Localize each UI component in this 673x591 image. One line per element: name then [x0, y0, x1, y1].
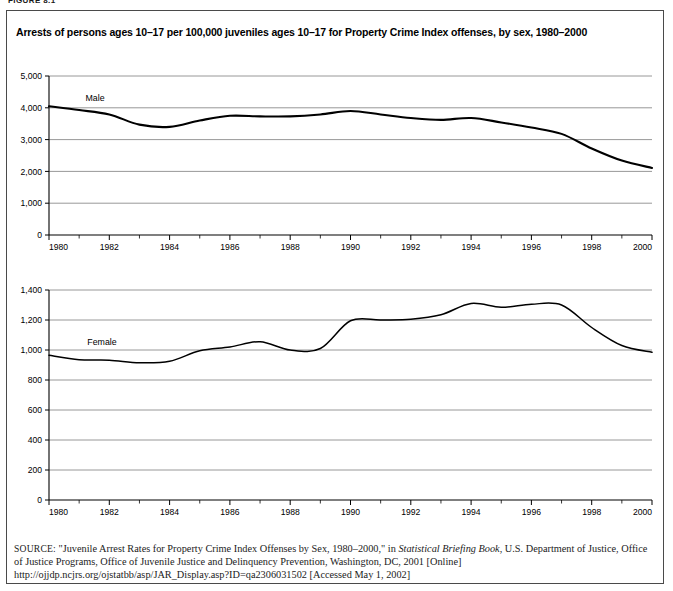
y-tick-label: 2,000 [20, 167, 42, 177]
y-tick-label: 1,000 [20, 198, 42, 208]
y-tick-label: 1,400 [20, 285, 42, 295]
x-tick-label: 1998 [582, 242, 601, 252]
series-label-male: Male [85, 93, 104, 103]
y-tick-label: 1,000 [20, 345, 42, 355]
x-tick-label: 1992 [401, 242, 420, 252]
x-tick-label: 1992 [401, 507, 420, 517]
y-tick-label: 200 [28, 465, 43, 475]
male-chart: 5,0004,0003,0002,0001,000019801982198419… [20, 71, 652, 252]
source-label: SOURCE: [14, 543, 56, 554]
charts-svg: 5,0004,0003,0002,0001,000019801982198419… [0, 0, 673, 530]
x-tick-label: 1990 [341, 507, 360, 517]
source-italic-title: Statistical Briefing Book [398, 543, 499, 554]
x-tick-label: 1982 [100, 507, 119, 517]
y-tick-label: 800 [28, 375, 43, 385]
source-text-1: "Juvenile Arrest Rates for Property Crim… [56, 543, 399, 554]
x-tick-label: 1984 [160, 242, 179, 252]
y-tick-label: 0 [37, 495, 42, 505]
y-tick-label: 400 [28, 435, 43, 445]
x-tick-label: 2000 [633, 242, 652, 252]
y-tick-label: 0 [37, 230, 42, 240]
y-tick-label: 600 [28, 405, 43, 415]
x-tick-label: 1994 [462, 242, 481, 252]
y-tick-label: 4,000 [20, 103, 42, 113]
x-tick-label: 1994 [462, 507, 481, 517]
x-tick-label: 1982 [100, 242, 119, 252]
y-tick-label: 3,000 [20, 135, 42, 145]
x-tick-label: 1996 [522, 507, 541, 517]
x-tick-label: 1986 [220, 507, 239, 517]
x-tick-label: 1988 [281, 507, 300, 517]
series-label-female: Female [87, 337, 116, 347]
female-chart: 1,4001,2001,0008006004002000198019821984… [20, 285, 652, 517]
x-tick-label: 1984 [160, 507, 179, 517]
x-tick-label: 1980 [49, 507, 68, 517]
x-tick-label: 1988 [281, 242, 300, 252]
x-tick-label: 1998 [582, 507, 601, 517]
y-tick-label: 1,200 [20, 315, 42, 325]
x-tick-label: 1980 [49, 242, 68, 252]
x-tick-label: 1996 [522, 242, 541, 252]
x-tick-label: 1990 [341, 242, 360, 252]
data-line-male [49, 106, 652, 168]
y-tick-label: 5,000 [20, 71, 42, 81]
data-line-female [49, 303, 652, 363]
charts-container: 5,0004,0003,0002,0001,000019801982198419… [0, 0, 673, 530]
x-tick-label: 2000 [633, 507, 652, 517]
x-tick-label: 1986 [220, 242, 239, 252]
source-note: SOURCE: "Juvenile Arrest Rates for Prope… [14, 542, 650, 582]
